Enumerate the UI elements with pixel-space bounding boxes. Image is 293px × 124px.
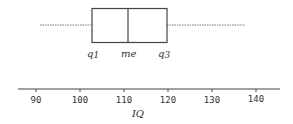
median-label: me xyxy=(121,48,136,59)
q3-label: q3 xyxy=(158,48,170,60)
x-tick-labels: 90 100 110 120 130 140 xyxy=(31,94,265,105)
iqr-box xyxy=(92,9,167,43)
q1-label: q1 xyxy=(87,48,99,60)
x-axis-label: IQ xyxy=(131,108,144,119)
tick-label-100: 100 xyxy=(72,95,88,105)
tick-label-120: 120 xyxy=(160,95,176,105)
box-plot: q1 me q3 90 100 110 120 130 140 IQ xyxy=(0,0,293,124)
tick-label-110: 110 xyxy=(116,95,132,105)
tick-label-130: 130 xyxy=(204,95,220,105)
tick-label-90: 90 xyxy=(31,95,42,105)
tick-label-140: 140 xyxy=(248,94,264,104)
